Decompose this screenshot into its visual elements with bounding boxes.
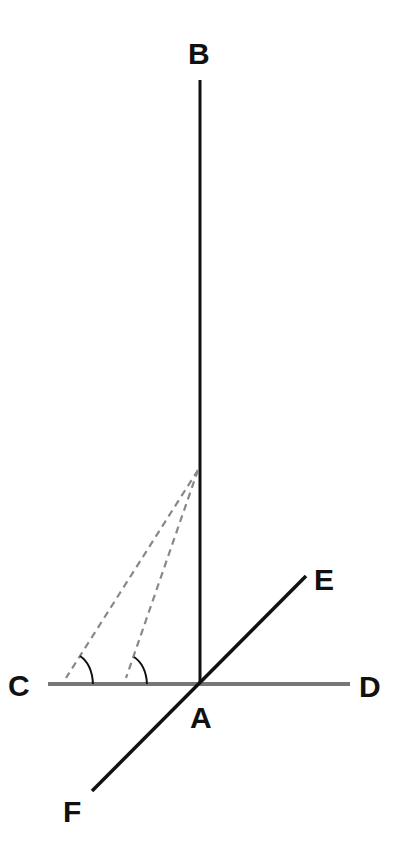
label-e: E <box>314 563 334 596</box>
geometry-diagram: B C D E A F <box>0 0 403 852</box>
angle-arc-inner <box>134 657 147 684</box>
label-b: B <box>188 37 210 70</box>
label-a: A <box>190 701 212 734</box>
label-c: C <box>8 669 30 702</box>
dashed-line-outer <box>66 470 198 678</box>
angle-arc-outer <box>80 656 93 684</box>
dashed-line-inner <box>126 470 198 678</box>
label-f: F <box>63 795 81 828</box>
label-d: D <box>359 670 381 703</box>
